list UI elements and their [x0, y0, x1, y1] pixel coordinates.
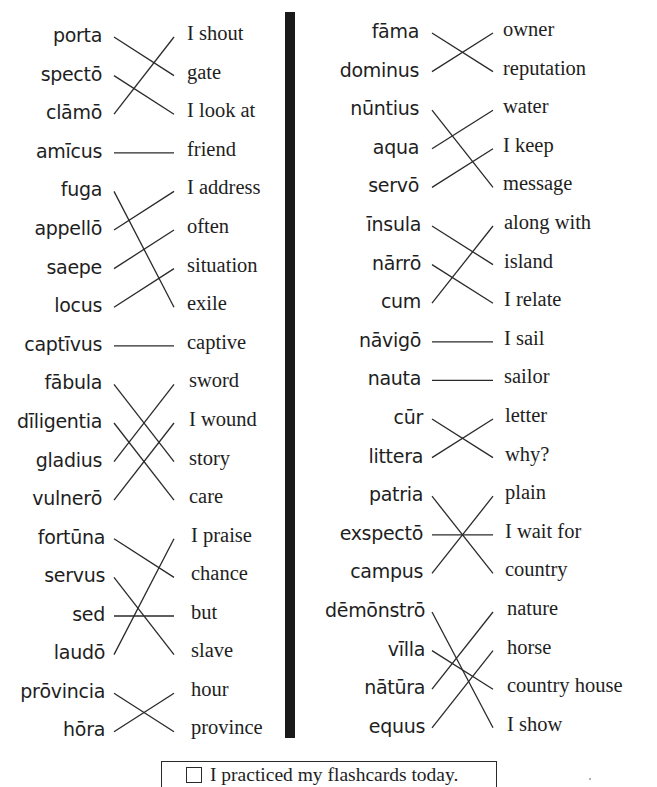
- match-line: [432, 612, 493, 689]
- match-line: [114, 191, 174, 230]
- match-lines: [0, 0, 657, 787]
- worksheet-page: porta spectō clāmō amīcus fuga appellō s…: [0, 0, 657, 787]
- match-line: [114, 539, 174, 578]
- match-line: [114, 539, 174, 655]
- flashcard-checkbox-label: I practiced my flashcards today.: [210, 764, 458, 786]
- match-line: [432, 110, 493, 149]
- match-line: [114, 269, 174, 308]
- match-line: [432, 149, 493, 188]
- match-line: [432, 110, 493, 187]
- flashcard-checkbox-row[interactable]: I practiced my flashcards today.: [161, 761, 497, 787]
- flashcard-checkbox[interactable]: [186, 767, 202, 783]
- match-line: [114, 76, 174, 115]
- match-line: [114, 37, 174, 114]
- match-line: [432, 226, 493, 303]
- match-line: [114, 230, 174, 269]
- match-line: [114, 37, 174, 76]
- match-line: [432, 651, 493, 690]
- match-line: [432, 265, 493, 304]
- match-line: [432, 226, 493, 265]
- stray-mark: [589, 778, 591, 780]
- match-line: [432, 651, 493, 728]
